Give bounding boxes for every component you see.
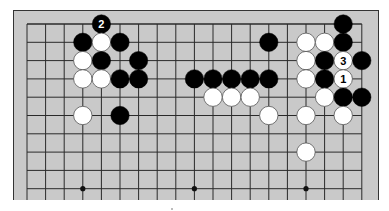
white-stone — [334, 106, 352, 124]
hoshi-point — [192, 186, 197, 191]
white-stone — [204, 88, 222, 106]
move-number-label: 3 — [340, 55, 346, 67]
move-number-label: 1 — [340, 73, 346, 85]
black-stone — [315, 51, 333, 69]
white-stone: 3 — [334, 51, 352, 69]
white-stone — [92, 33, 110, 51]
move-number-label: 2 — [98, 18, 104, 30]
white-stone — [315, 33, 333, 51]
hoshi-point — [303, 186, 308, 191]
black-stone — [241, 70, 259, 88]
black-stone — [260, 70, 278, 88]
white-stone — [92, 70, 110, 88]
black-stone — [111, 70, 129, 88]
black-stone — [353, 88, 371, 106]
white-stone — [297, 51, 315, 69]
black-stone — [334, 88, 352, 106]
white-stone — [297, 70, 315, 88]
white-stone — [297, 33, 315, 51]
black-stone — [111, 33, 129, 51]
black-stone — [334, 15, 352, 33]
black-stone — [92, 51, 110, 69]
stray-mark — [171, 208, 173, 210]
white-stone — [74, 51, 92, 69]
white-stone — [297, 143, 315, 161]
hoshi-point — [80, 186, 85, 191]
black-stone — [222, 70, 240, 88]
black-stone — [260, 33, 278, 51]
black-stone — [334, 33, 352, 51]
black-stone — [74, 33, 92, 51]
white-stone — [74, 70, 92, 88]
black-stone — [204, 70, 222, 88]
black-stone — [111, 106, 129, 124]
white-stone — [241, 88, 259, 106]
black-stone — [185, 70, 203, 88]
black-stone — [353, 51, 371, 69]
go-board-grid: 231 — [0, 0, 389, 211]
black-stone — [315, 70, 333, 88]
white-stone — [222, 88, 240, 106]
white-stone — [315, 88, 333, 106]
black-stone — [129, 70, 147, 88]
white-stone: 1 — [334, 70, 352, 88]
black-stone — [129, 51, 147, 69]
black-stone: 2 — [92, 15, 110, 33]
white-stone — [260, 106, 278, 124]
white-stone — [74, 106, 92, 124]
white-stone — [297, 106, 315, 124]
